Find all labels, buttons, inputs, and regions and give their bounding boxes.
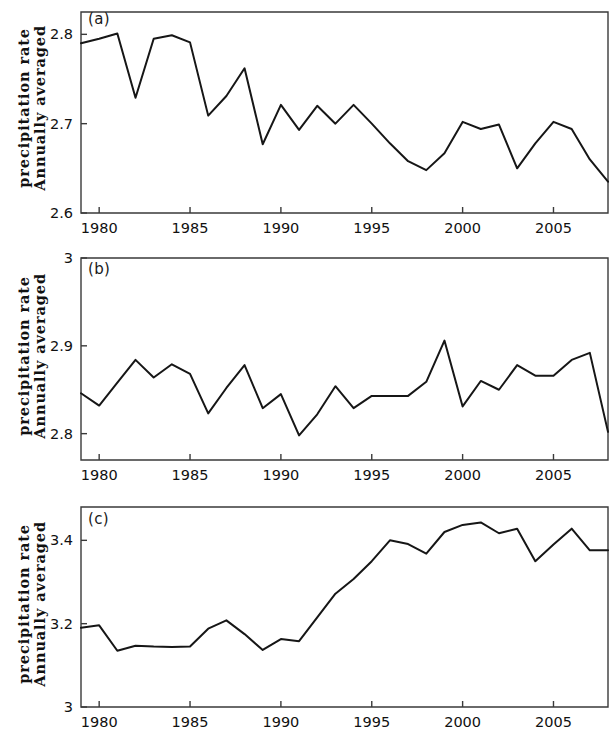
x-tick-label: 1980	[81, 467, 118, 483]
x-tick-label: 1990	[262, 714, 299, 730]
x-tick-label: 1985	[172, 467, 209, 483]
panel-b-tag: (b)	[88, 260, 110, 278]
x-tick-label: 1985	[172, 220, 209, 236]
x-tick-label: 1990	[262, 467, 299, 483]
panel-a-tag: (a)	[88, 10, 110, 28]
x-tick-label: 2000	[444, 714, 481, 730]
x-tick-label: 1995	[353, 220, 390, 236]
y-tick-label: 2.7	[50, 116, 73, 132]
data-series-line	[81, 33, 608, 181]
panel-c: Annually averaged precipitation rate 3.4…	[0, 496, 613, 740]
x-tick-label: 1985	[172, 714, 209, 730]
y-tick-label: 3.2	[50, 616, 73, 632]
y-tick-label: 3	[64, 699, 73, 715]
x-tick-label: 2000	[444, 220, 481, 236]
x-tick-label: 1995	[353, 714, 390, 730]
x-tick-label: 2005	[535, 220, 572, 236]
x-tick-label: 2000	[444, 467, 481, 483]
panel-b-plot: 32.92.8198019851990199520002005	[0, 248, 613, 496]
x-tick-label: 1980	[81, 220, 118, 236]
y-tick-label: 2.8	[50, 26, 73, 42]
x-tick-label: 2005	[535, 467, 572, 483]
y-tick-label: 2.6	[50, 205, 73, 221]
panel-a-plot: 2.82.72.6198019851990199520002005	[0, 0, 613, 248]
y-tick-label: 3.4	[50, 532, 73, 548]
y-tick-label: 2.8	[50, 426, 73, 442]
panel-c-plot: 3.43.23198019851990199520002005	[0, 496, 613, 740]
panel-c-tag: (c)	[88, 510, 109, 528]
panel-a: Annually averaged precipitation rate 2.8…	[0, 0, 613, 248]
x-tick-label: 1990	[262, 220, 299, 236]
precipitation-rate-figure: Annually averaged precipitation rate 2.8…	[0, 0, 613, 740]
plot-frame	[81, 258, 608, 460]
y-tick-label: 3	[64, 250, 73, 266]
panel-b: Annually averaged precipitation rate 32.…	[0, 248, 613, 496]
x-tick-label: 2005	[535, 714, 572, 730]
x-tick-label: 1995	[353, 467, 390, 483]
plot-frame	[81, 507, 608, 707]
data-series-line	[81, 341, 608, 436]
plot-frame	[81, 12, 608, 213]
x-tick-label: 1980	[81, 714, 118, 730]
y-tick-label: 2.9	[50, 338, 73, 354]
data-series-line	[81, 522, 608, 650]
